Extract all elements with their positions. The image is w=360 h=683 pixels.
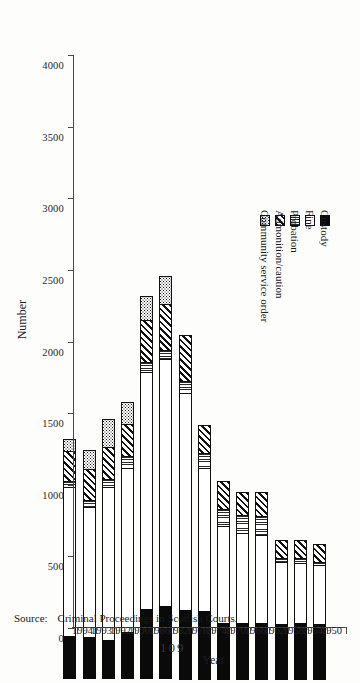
category-tick [173, 627, 174, 634]
value-tick-label: 1500 [42, 418, 64, 429]
bar-segment-cso [159, 276, 172, 305]
bar-segment-adm [313, 544, 326, 563]
bar-segment-adm [179, 335, 192, 382]
value-tick-label: 2000 [42, 347, 64, 358]
page-number: 109 [160, 640, 186, 656]
source-note: Source:Criminal Proceedings in Scottish … [14, 612, 238, 624]
bar-1954 [294, 540, 307, 683]
category-label-1970: 1970 [226, 625, 247, 636]
bar-1966 [236, 492, 249, 683]
category-label-1966: 1966 [245, 625, 266, 636]
category-tick [269, 627, 270, 634]
bar-segment-adm [275, 540, 288, 559]
bar-segment-prob [236, 515, 249, 534]
value-tick-label: 3500 [42, 132, 64, 143]
bar-segment-cso [121, 402, 134, 425]
bar-segment-fine [217, 526, 230, 623]
value-tick [68, 198, 74, 199]
value-axis-title: Number [15, 300, 30, 339]
bar-segment-fine [159, 359, 172, 607]
category-label-1986: 1986 [149, 625, 170, 636]
category-tick [231, 627, 232, 634]
bar-1974 [198, 425, 211, 683]
plot-area [74, 55, 342, 627]
bar-segment-adm [255, 492, 268, 516]
category-tick [154, 627, 155, 634]
bar-segment-adm [83, 469, 96, 502]
bar-1992 [102, 419, 115, 683]
category-label-1962: 1962 [264, 625, 285, 636]
value-tick [68, 413, 74, 414]
bar-segment-adm [63, 451, 76, 483]
bar-segment-cust [102, 640, 115, 679]
value-tick [68, 556, 74, 557]
bar-segment-adm [236, 492, 249, 516]
value-tick-label: 1000 [42, 490, 64, 501]
category-tick [308, 627, 309, 634]
category-tick [116, 627, 117, 634]
bar-segment-prob [198, 453, 211, 469]
category-label-1993: 1993 [91, 625, 112, 636]
category-tick [288, 627, 289, 634]
bar-segment-adm [294, 540, 307, 559]
bar-segment-cust [83, 637, 96, 679]
bar-segment-fine [255, 535, 268, 624]
bar-segment-cso [140, 296, 153, 320]
category-label-1990: 1990 [130, 625, 151, 636]
category-label-1950: 1950 [322, 625, 343, 636]
value-tick [68, 127, 74, 128]
category-tick [96, 627, 97, 634]
bar-segment-fine [275, 562, 288, 625]
category-label-1954: 1954 [302, 625, 323, 636]
bar-segment-fine [121, 468, 134, 633]
category-label-1992: 1992 [110, 625, 131, 636]
source-text: Criminal Proceedings in Scottish Courts. [58, 612, 238, 624]
bar-segment-prob [255, 516, 268, 536]
category-label-1978: 1978 [187, 625, 208, 636]
category-tick [327, 627, 328, 634]
bar-segment-fine [179, 393, 192, 611]
category-tick [135, 627, 136, 634]
bar-1950 [313, 544, 326, 683]
category-axis-title: Year [203, 653, 225, 668]
bar-1990 [121, 402, 134, 683]
value-tick-label: 0 [59, 633, 64, 644]
bar-1993 [83, 450, 96, 683]
value-tick-label: 3000 [42, 203, 64, 214]
category-label-1982: 1982 [168, 625, 189, 636]
bar-segment-adm [198, 425, 211, 454]
bar-segment-fine [140, 372, 153, 610]
bar-segment-cso [83, 450, 96, 470]
bar-1958 [275, 540, 288, 683]
bar-segment-cust [121, 632, 134, 679]
value-tick [68, 270, 74, 271]
bar-segment-fine [313, 565, 326, 625]
bar-segment-fine [236, 533, 249, 625]
value-tick-label: 4000 [42, 60, 64, 71]
bar-segment-adm [217, 481, 230, 510]
category-label-1958: 1958 [283, 625, 304, 636]
value-tick [68, 485, 74, 486]
bar-segment-prob [217, 509, 230, 528]
bar-1994 [63, 439, 76, 683]
source-label: Source: [14, 612, 48, 624]
bar-segment-adm [102, 447, 115, 480]
bar-segment-fine [294, 563, 307, 625]
value-tick [68, 342, 74, 343]
bar-segment-cust [63, 636, 76, 679]
bar-segment-cso [102, 419, 115, 448]
bar-segment-fine [198, 468, 211, 613]
bar-1962 [255, 492, 268, 683]
value-tick [68, 55, 74, 56]
value-tick-label: 500 [48, 561, 64, 572]
category-label-1994: 1994 [72, 625, 93, 636]
category-tick [192, 627, 193, 634]
bar-segment-adm [159, 304, 172, 351]
bar-segment-adm [121, 424, 134, 457]
category-label-1974: 1974 [206, 625, 227, 636]
value-tick-label: 2500 [42, 275, 64, 286]
bar-segment-adm [140, 320, 153, 363]
category-tick [346, 627, 347, 634]
category-tick [250, 627, 251, 634]
